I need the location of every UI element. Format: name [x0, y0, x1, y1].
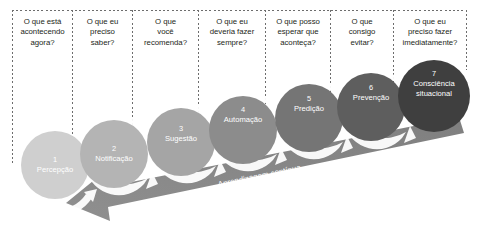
question-4-line-2: deveria fazer [199, 27, 265, 37]
question-3: O que você recomenda? [133, 17, 198, 48]
question-7: O que eu preciso fazer imediatamente? [394, 17, 466, 48]
stage-circle-6[interactable] [337, 73, 405, 141]
question-5-line-3: aconteça? [266, 38, 330, 48]
stage-circle-5[interactable] [275, 84, 343, 152]
question-1: O que está acontecendo agora? [13, 17, 72, 48]
stage-circle-4[interactable] [209, 96, 277, 164]
question-1-line-2: acontecendo [13, 27, 72, 37]
diagram-canvas: O que está acontecendo agora? O que eu p… [0, 0, 477, 230]
question-7-line-3: imediatamente? [394, 38, 466, 48]
question-3-line-3: recomenda? [133, 38, 198, 48]
question-2-line-3: saber? [73, 38, 132, 48]
question-3-line-1: O que [133, 17, 198, 27]
question-6: O que consigo evitar? [331, 17, 393, 48]
question-6-line-2: consigo [331, 27, 393, 37]
question-1-line-1: O que está [13, 17, 72, 27]
question-2-line-1: O que eu [73, 17, 132, 27]
question-5-line-2: esperar que [266, 27, 330, 37]
question-4: O que eu deveria fazer sempre? [199, 17, 265, 48]
question-2: O que eu preciso saber? [73, 17, 132, 48]
question-1-line-3: agora? [13, 38, 72, 48]
stage-circle-7[interactable] [398, 60, 470, 132]
stage-circle-2[interactable] [80, 120, 148, 188]
question-5-line-1: O que posso [266, 17, 330, 27]
question-3-line-2: você [133, 27, 198, 37]
question-6-line-1: O que [331, 17, 393, 27]
question-7-line-1: O que eu [394, 17, 466, 27]
stage-circle-3[interactable] [147, 108, 215, 176]
question-4-line-1: O que eu [199, 17, 265, 27]
question-5: O que posso esperar que aconteça? [266, 17, 330, 48]
question-2-line-2: preciso [73, 27, 132, 37]
question-6-line-3: evitar? [331, 38, 393, 48]
question-4-line-3: sempre? [199, 38, 265, 48]
question-7-line-2: preciso fazer [394, 27, 466, 37]
stage-circle-1[interactable] [21, 131, 89, 199]
